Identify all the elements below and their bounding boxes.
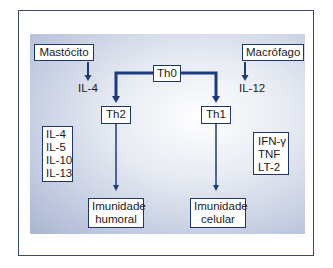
label-il12: IL-12 bbox=[239, 82, 265, 94]
arrow-th2-humoral bbox=[113, 124, 119, 191]
node-macrofago: Macrófago bbox=[242, 44, 304, 61]
cytokine-item: IL-5 bbox=[46, 141, 69, 154]
arrow-th0-th1 bbox=[181, 73, 220, 103]
cytokine-item: IL-10 bbox=[46, 154, 69, 167]
cytokine-item: IL-4 bbox=[46, 128, 69, 141]
node-text-line: humoral bbox=[92, 213, 140, 226]
label-il4: IL-4 bbox=[78, 82, 98, 94]
cytokine-item: LT-2 bbox=[258, 161, 284, 174]
node-text-line: celular bbox=[194, 213, 242, 226]
cytokine-item: IL-13 bbox=[46, 167, 69, 180]
cytokine-list-th1: IFN-γ TNF LT-2 bbox=[253, 132, 289, 175]
node-imunidade-celular: Imunidade celular bbox=[190, 198, 246, 228]
cytokine-item: IFN-γ bbox=[258, 135, 284, 148]
arrow-th1-celular bbox=[213, 124, 219, 191]
cytokine-item: TNF bbox=[258, 148, 284, 161]
node-text-line: Imunidade bbox=[194, 200, 242, 213]
node-th2: Th2 bbox=[101, 106, 131, 124]
node-th0: Th0 bbox=[153, 65, 181, 82]
arrow-mastocito-il4 bbox=[85, 62, 92, 81]
node-th1: Th1 bbox=[201, 106, 231, 124]
node-text-line: Imunidade bbox=[92, 200, 140, 213]
node-mastocito: Mastócito bbox=[34, 44, 94, 61]
arrow-th0-th2 bbox=[112, 73, 153, 103]
cytokine-list-th2: IL-4 IL-5 IL-10 IL-13 bbox=[42, 126, 73, 182]
node-imunidade-humoral: Imunidade humoral bbox=[88, 198, 144, 228]
arrow-macrofago-il12 bbox=[242, 62, 249, 81]
